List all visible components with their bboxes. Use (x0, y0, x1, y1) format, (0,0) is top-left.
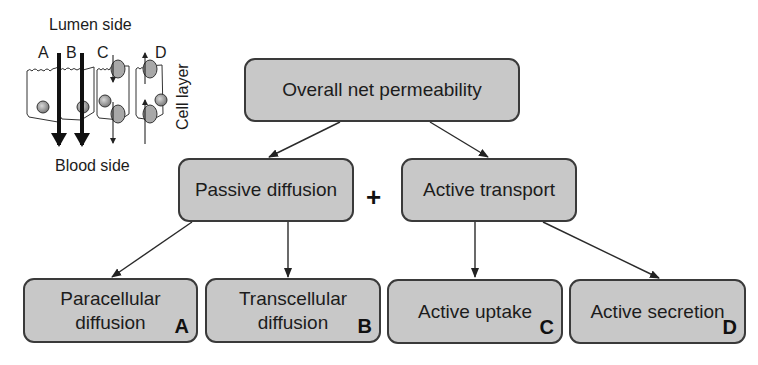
cell-layer-illustration (27, 60, 167, 123)
node-label-line1: Transcellular (239, 287, 347, 311)
arrow-passive-to-paracellular (112, 222, 192, 277)
plus-operator: + (366, 182, 381, 213)
node-paracellular-diffusion: Paracellular diffusion A (23, 278, 198, 343)
blood-side-label: Blood side (55, 157, 130, 175)
node-active-transport: Active transport (401, 158, 577, 222)
node-label-line2: diffusion (239, 311, 347, 335)
cell-2 (60, 67, 94, 120)
node-passive-diffusion: Passive diffusion (178, 158, 354, 222)
route-letter-d: D (155, 44, 167, 62)
arrow-root-to-active (430, 122, 488, 157)
node-label: Active transport (423, 178, 555, 202)
node-label-line1: Active secretion (590, 300, 724, 324)
node-label: Passive diffusion (195, 178, 337, 202)
route-letter-b: B (66, 44, 77, 62)
nucleus-icon (37, 101, 49, 113)
route-letter-a: A (38, 44, 49, 62)
route-letter-badge: D (723, 315, 737, 339)
node-active-uptake: Active uptake C (387, 279, 563, 344)
node-label-line1: Paracellular (60, 287, 160, 311)
arrow-root-to-passive (269, 122, 340, 157)
node-label: Overall net permeability (282, 78, 482, 102)
route-letter-c: C (97, 44, 109, 62)
node-active-secretion: Active secretion D (569, 279, 746, 344)
route-letter-badge: B (358, 314, 372, 338)
arrow-active-to-secretion (543, 222, 659, 278)
node-transcellular-diffusion: Transcellular diffusion B (205, 278, 381, 343)
node-label-line1: Active uptake (418, 300, 532, 324)
route-letter-badge: A (175, 314, 189, 338)
cell-layer-label: Cell layer (174, 63, 192, 130)
nucleus-icon (155, 94, 167, 106)
nucleus-icon (99, 95, 111, 107)
route-letter-badge: C (540, 315, 554, 339)
node-label-line2: diffusion (60, 311, 160, 335)
node-overall-net-permeability: Overall net permeability (244, 58, 520, 122)
cell-1 (27, 67, 58, 122)
lumen-side-label: Lumen side (49, 16, 132, 34)
